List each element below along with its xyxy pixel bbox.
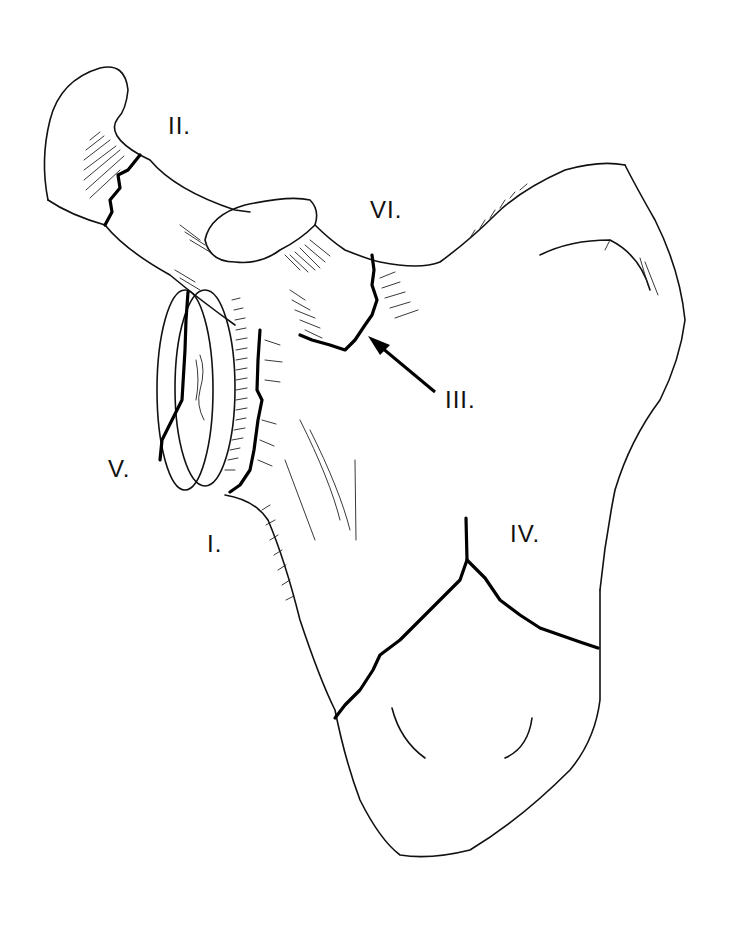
- label-VI: VI.: [370, 196, 402, 224]
- coracoid: [205, 163, 625, 350]
- label-II: II.: [168, 112, 191, 140]
- label-III: III.: [445, 386, 476, 414]
- glenoid: [157, 290, 247, 490]
- supraspinous-contour: [540, 240, 658, 295]
- label-I: I.: [207, 530, 222, 558]
- arrow-III: [368, 336, 435, 392]
- body-fracture: [335, 518, 598, 758]
- label-IV: IV.: [510, 520, 540, 548]
- neck-lateral-border: [225, 165, 685, 857]
- label-V: V.: [108, 455, 130, 483]
- acromion: [44, 67, 250, 325]
